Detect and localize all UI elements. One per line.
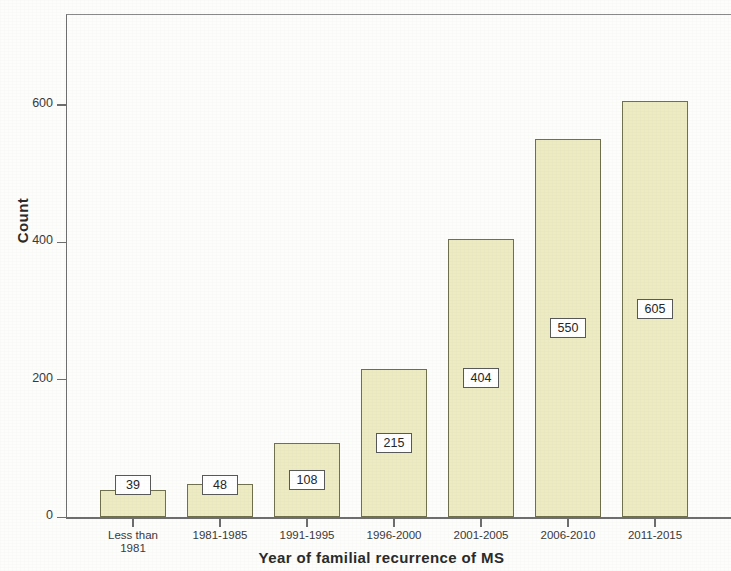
x-axis-tick-mark <box>393 518 394 527</box>
y-axis-tick-mark <box>57 242 66 243</box>
x-axis-tick-label: 2001-2005 <box>433 529 529 542</box>
x-axis-tick-mark <box>480 518 481 527</box>
x-axis-title: Year of familial recurrence of MS <box>66 549 697 566</box>
x-axis-tick-mark <box>306 518 307 527</box>
x-axis-tick-mark <box>654 518 655 527</box>
bar-chart: Count 0200400600 Less than 19811981-1985… <box>0 0 731 571</box>
x-axis-tick-label: 2011-2015 <box>607 529 703 542</box>
x-axis-tick-mark <box>132 518 133 527</box>
x-axis-tick-label: 1981-1985 <box>172 529 268 542</box>
bar-value-label: 48 <box>202 475 238 495</box>
bar-value-label: 215 <box>376 433 412 453</box>
x-axis-tick-mark <box>567 518 568 527</box>
x-axis-tick-label: 1996-2000 <box>346 529 442 542</box>
bar-value-label: 39 <box>115 475 151 495</box>
y-axis-tick-mark <box>57 104 66 105</box>
y-axis-tick-label: 400 <box>32 233 53 247</box>
x-axis-tick-mark <box>219 518 220 527</box>
y-axis-tick-mark <box>57 517 66 518</box>
y-axis-tick-mark <box>57 379 66 380</box>
y-axis-tick-label: 200 <box>32 371 53 385</box>
y-axis-title: Count <box>14 171 31 271</box>
x-axis-line <box>66 517 731 519</box>
bar-value-label: 605 <box>637 299 673 319</box>
bar-value-label: 404 <box>463 368 499 388</box>
x-axis-tick-label: 1991-1995 <box>259 529 355 542</box>
bar-value-label: 550 <box>550 318 586 338</box>
y-axis-tick-label: 600 <box>32 96 53 110</box>
x-axis-tick-label: 2006-2010 <box>520 529 616 542</box>
bar-value-label: 108 <box>289 470 325 490</box>
y-axis-tick-label: 0 <box>46 508 53 522</box>
